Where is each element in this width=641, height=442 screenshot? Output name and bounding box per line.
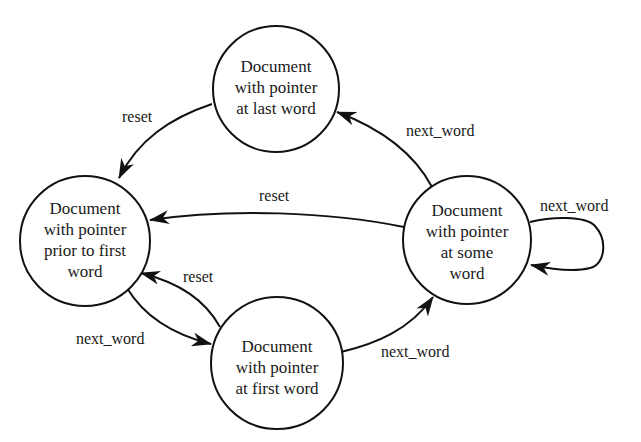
edge-some-to-prior [150,213,404,227]
svg-text:word: word [68,262,103,281]
state-first-word: Document with pointer at first word [211,297,343,429]
svg-text:at first word: at first word [235,379,319,398]
edge-label-last-to-prior: reset [122,108,153,125]
edge-label-some-to-prior: reset [259,187,290,204]
svg-text:Document: Document [241,57,312,76]
state-prior-to-first: Document with pointer prior to first wor… [20,176,150,306]
state-last-word: Document with pointer at last word [213,26,339,152]
edge-some-self-loop [530,218,603,270]
edge-label-some-self-loop: next_word [540,197,608,214]
edge-label-first-to-prior: reset [183,268,214,285]
state-some-word: Document with pointer at some word [403,176,531,304]
edge-label-first-to-some: next_word [381,343,449,360]
edge-label-some-to-last: next_word [406,122,474,139]
svg-text:with pointer: with pointer [236,358,319,377]
state-diagram: reset next_word reset next_word reset ne… [0,0,641,442]
svg-text:with pointer: with pointer [426,222,509,241]
svg-text:at last word: at last word [236,99,316,118]
svg-text:Document: Document [242,337,313,356]
svg-text:with pointer: with pointer [44,220,127,239]
svg-text:prior to first: prior to first [44,241,126,260]
svg-text:at some: at some [441,243,493,262]
svg-text:Document: Document [432,201,503,220]
svg-text:with pointer: with pointer [235,78,318,97]
svg-text:Document: Document [50,199,121,218]
svg-text:word: word [450,264,485,283]
edge-label-prior-to-first: next_word [76,330,144,347]
